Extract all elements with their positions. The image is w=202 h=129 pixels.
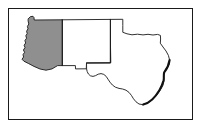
state-new-mexico[interactable] (62, 19, 110, 69)
southwest-states-map (0, 0, 202, 129)
map-figure (0, 0, 202, 129)
state-arizona[interactable] (22, 16, 62, 70)
